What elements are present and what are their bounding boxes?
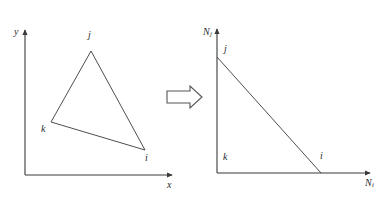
- right-triangle-hypotenuse: [217, 57, 321, 173]
- figure-container: y x j k i Nj Ni j k i: [0, 0, 391, 199]
- left-triangle: [51, 51, 145, 150]
- left-triangle-shape: [51, 51, 145, 150]
- left-vertex-label-k: k: [41, 124, 46, 134]
- right-axes: [217, 29, 370, 173]
- right-x-axis-label-sub: i: [372, 181, 374, 189]
- left-y-axis-label: y: [14, 27, 19, 37]
- left-vertex-label-i: i: [145, 153, 148, 163]
- left-x-axis-label: x: [167, 180, 172, 190]
- right-y-axis-label: Nj: [203, 27, 212, 38]
- diagram-canvas: [0, 0, 391, 199]
- transform-arrow-glyph: [167, 86, 202, 108]
- right-vertex-label-i: i: [320, 151, 323, 161]
- right-x-axis-label-base: N: [365, 177, 372, 188]
- right-y-axis-label-sub: j: [210, 30, 212, 38]
- arrow-outline: [167, 86, 202, 108]
- right-vertex-label-k: k: [223, 152, 228, 162]
- right-x-axis-label: Ni: [365, 178, 374, 189]
- left-axes: [25, 30, 172, 175]
- right-y-axis-label-base: N: [203, 26, 210, 37]
- left-vertex-label-j: j: [88, 30, 91, 40]
- right-triangle: [217, 57, 321, 173]
- right-vertex-label-j: j: [224, 44, 227, 54]
